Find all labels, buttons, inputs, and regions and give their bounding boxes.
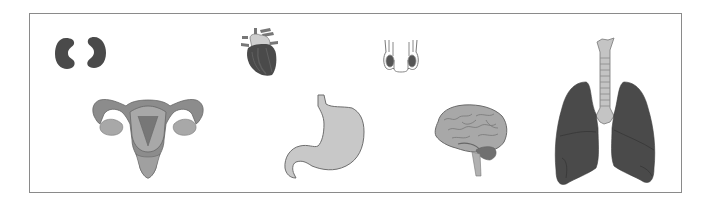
kidneys-icon [54,36,108,70]
brain-icon [432,102,508,178]
testes-icon [382,38,420,74]
uterus-icon [92,96,204,178]
stomach-icon [284,94,366,180]
heart-icon [240,26,280,78]
lungs-icon [552,38,658,186]
